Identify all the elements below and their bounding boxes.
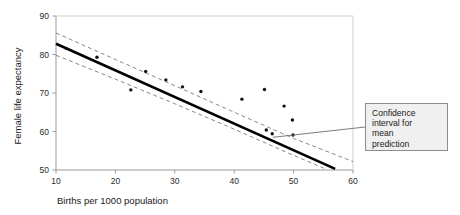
data-point-4 [164, 78, 167, 81]
data-point-1 [95, 56, 98, 59]
data-point-6 [199, 90, 202, 93]
data-point-8 [263, 88, 266, 91]
callout-line-2: interval for [372, 118, 442, 128]
x-axis-tick-labels: 102030405060 [51, 176, 358, 186]
x-tick-label-40: 40 [229, 176, 239, 186]
data-point-10 [271, 132, 274, 135]
callout-leader-line [273, 127, 365, 137]
x-tick-label-50: 50 [289, 176, 299, 186]
confidence-interval-callout: Confidence interval for mean prediction [365, 103, 448, 151]
confidence-band [56, 33, 353, 169]
x-tick-label-20: 20 [111, 176, 121, 186]
y-tick-label-80: 80 [40, 50, 50, 60]
y-axis-ticks [53, 16, 57, 170]
data-point-12 [291, 118, 294, 121]
data-point-7 [240, 97, 243, 100]
data-point-0 [64, 47, 67, 50]
x-axis-ticks [56, 170, 353, 174]
y-tick-label-50: 50 [40, 165, 50, 175]
y-axis-tick-labels: 5060708090 [40, 11, 50, 175]
x-tick-label-30: 30 [170, 176, 180, 186]
callout-line-1: Confidence [372, 108, 442, 118]
data-point-9 [265, 128, 268, 131]
callout-line-3: mean [372, 128, 442, 138]
y-tick-label-90: 90 [40, 11, 50, 21]
chart-figure: 102030405060 5060708090 Births per 1000 … [0, 0, 460, 215]
x-tick-label-60: 60 [348, 176, 358, 186]
plot-frame [56, 16, 353, 170]
x-axis-title: Births per 1000 population [57, 195, 168, 206]
data-points-group [64, 47, 294, 137]
regression-fit-line [56, 44, 335, 169]
callout-line-4: prediction [372, 139, 442, 149]
data-point-11 [282, 104, 285, 107]
y-axis-title: Female life expectancy [12, 47, 23, 144]
data-point-5 [181, 85, 184, 88]
data-point-2 [129, 88, 132, 91]
y-tick-label-60: 60 [40, 127, 50, 137]
y-tick-label-70: 70 [40, 88, 50, 98]
x-tick-label-10: 10 [51, 176, 61, 186]
data-point-3 [144, 70, 147, 73]
